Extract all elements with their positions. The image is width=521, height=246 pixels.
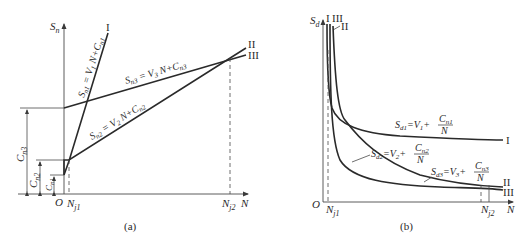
x-axis-label-a: N [240,197,249,209]
label-I-a: I [106,21,110,33]
leader-II-top [333,26,340,30]
y-axis-label-b: Sd [310,14,321,29]
tick-Nj1-b: Nj1 [325,203,340,218]
equation-Sd3: Sd3=V3+ Cn3 N [424,160,489,183]
line-I-a [64,33,108,175]
figure-canvas: Sn I II III Cn3 Cn2 Cn1 O Nj1 Nj2 N Sn1 … [0,0,521,246]
top-label-II-b: II [341,20,349,32]
svg-text:N: N [416,154,425,165]
origin-label-a: O [55,196,63,208]
svg-text:N: N [476,172,485,183]
svg-text:Sd1=V1+: Sd1=V1+ [395,119,430,132]
equation-Sn3: Sn3 = V3 N+Cn3 [124,58,189,88]
figure-a: Sn I II III Cn3 Cn2 Cn1 O Nj1 Nj2 N Sn1 … [14,20,259,233]
figure-b: Sd I III II I II III O Nj1 Nj2 N Sd1=V1+… [310,12,515,233]
origin-label-b: O [312,198,320,210]
right-label-I-b: I [506,134,510,146]
tick-Nj1-a: Nj1 [66,197,81,212]
right-label-III-b: III [503,186,514,198]
svg-text:Sd2=V2+: Sd2=V2+ [371,148,406,161]
svg-text:N: N [440,125,449,136]
leader-Sd2 [352,155,370,162]
caption-b: (b) [400,220,413,233]
tick-Nj2-a: Nj2 [221,197,236,212]
equation-Sd1: Sd1=V1+ Cn1 N [395,113,453,136]
caption-a: (a) [124,220,137,233]
x-axis-label-b: N [506,203,515,215]
svg-text:Sd3=V3+: Sd3=V3+ [431,166,466,179]
top-label-I-b: I [326,12,330,24]
y-axis-label-a: Sn [50,20,60,35]
equation-Sn2: Sn2 = V2 N+Cn2 [87,99,148,144]
label-III-a: III [248,49,259,61]
tick-Nj2-b: Nj2 [480,203,495,218]
